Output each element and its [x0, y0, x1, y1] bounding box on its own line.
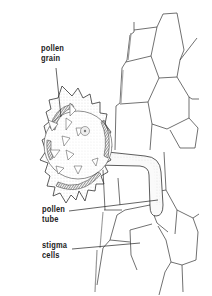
label-pollen-grain: pollen grain — [41, 44, 64, 63]
pollen-diagram — [0, 0, 212, 296]
label-pollen-tube: pollen tube — [42, 205, 65, 224]
label-stigma-cells-line2: cells — [42, 251, 67, 261]
label-stigma-cells: stigma cells — [42, 241, 67, 260]
label-pollen-tube-line2: tube — [42, 215, 65, 225]
label-pollen-grain-line2: grain — [41, 54, 64, 64]
pollen-grain-drawing — [40, 86, 112, 203]
